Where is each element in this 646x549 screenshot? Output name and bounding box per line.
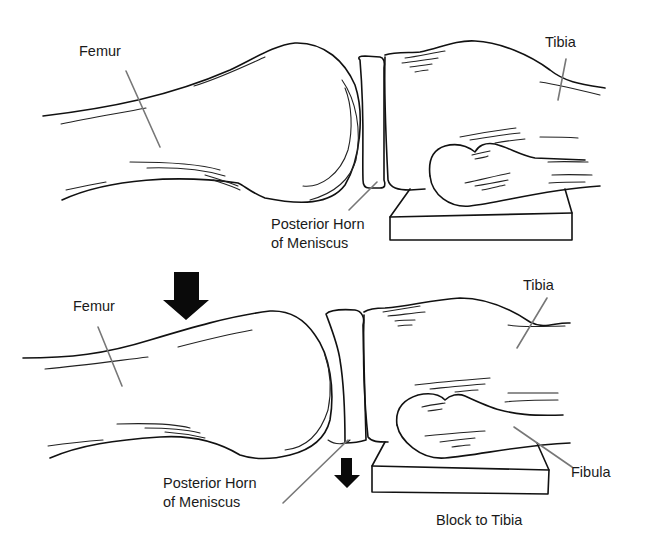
tibia-leader [517,298,547,348]
top-femur [43,43,360,202]
label-block-to-tibia: Block to Tibia [436,512,522,529]
femur-leader [126,71,160,147]
top-block [390,189,572,240]
label-meniscus-top-2: of Meniscus [271,235,348,252]
knee-meniscus-diagram: Femur Tibia Posterior Horn of Meniscus F… [0,0,646,549]
down-arrow-large-icon [163,272,209,320]
top-meniscus [359,56,385,188]
label-femur-bottom: Femur [73,298,115,315]
bottom-meniscus [326,310,366,443]
label-meniscus-top-1: Posterior Horn [271,216,364,233]
top-tibia [385,41,605,206]
label-meniscus-bottom-2: of Meniscus [163,494,240,511]
label-femur-top: Femur [79,43,121,60]
label-tibia-top: Tibia [545,34,576,51]
label-meniscus-bottom-1: Posterior Horn [163,475,256,492]
meniscus-leader [349,182,377,210]
down-arrow-small-icon [334,458,360,488]
meniscus-leader [283,440,348,503]
bottom-block [372,442,549,494]
bottom-femur [23,311,350,459]
label-tibia-bottom: Tibia [523,277,554,294]
label-fibula: Fibula [571,464,611,481]
bottom-tibia [364,298,570,458]
line-drawing [0,0,646,549]
femur-leader [98,327,122,386]
